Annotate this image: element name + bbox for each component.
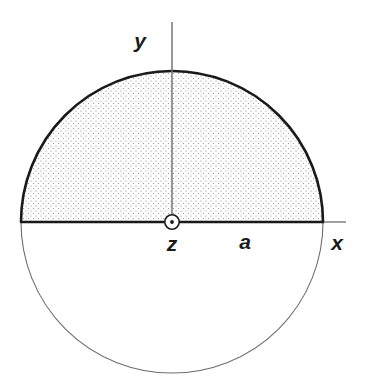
y-axis-label: y (133, 29, 147, 52)
z-axis-out-of-page-icon (165, 215, 179, 229)
z-axis-label: z (166, 232, 178, 255)
figure-container: y x z a (0, 0, 367, 384)
x-axis-label: x (330, 231, 344, 254)
diagram-canvas: y x z a (0, 0, 367, 384)
radius-label: a (239, 230, 251, 253)
